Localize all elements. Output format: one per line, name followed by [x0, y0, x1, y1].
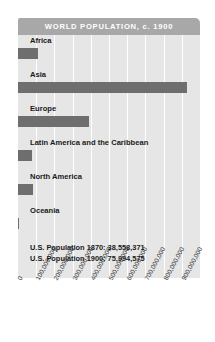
bar-label: Asia — [30, 69, 46, 80]
x-axis-tick-labels: 0100,000,000200,000,000300,000,000400,00… — [18, 278, 200, 342]
bar-row: Africa — [18, 35, 200, 69]
world-population-chart: WORLD POPULATION, c. 1900 AfricaAsiaEuro… — [0, 0, 215, 342]
bar — [18, 116, 89, 127]
bar-label: Europe — [30, 103, 56, 114]
bar-label: Africa — [30, 35, 52, 46]
bar — [18, 150, 32, 161]
bar — [18, 218, 19, 229]
bar-label: North America — [30, 171, 82, 182]
bar-row: Europe — [18, 103, 200, 137]
bar — [18, 184, 33, 195]
bar-row: Asia — [18, 69, 200, 103]
bar-label: Oceania — [30, 205, 60, 216]
plot-area: AfricaAsiaEuropeLatin America and the Ca… — [18, 35, 200, 278]
page-title: WORLD POPULATION, c. 1900 — [45, 23, 173, 31]
bar-row: North America — [18, 171, 200, 205]
chart-title-banner: WORLD POPULATION, c. 1900 — [18, 18, 200, 35]
bar — [18, 48, 38, 59]
bar-row: Latin America and the Caribbean — [18, 137, 200, 171]
bar-row: Oceania — [18, 205, 200, 239]
bar-label: Latin America and the Caribbean — [30, 137, 148, 148]
bar — [18, 82, 187, 93]
